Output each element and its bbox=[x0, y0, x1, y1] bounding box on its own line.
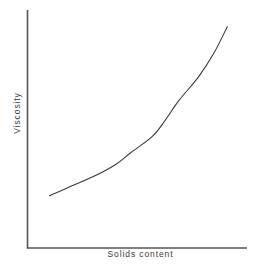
y-axis-label-text: Viscosity bbox=[12, 92, 22, 133]
figure-container: Viscosity Solids content bbox=[0, 0, 253, 265]
y-axis-label: Viscosity bbox=[5, 78, 29, 148]
chart-canvas bbox=[0, 0, 253, 265]
x-axis-label: Solids content bbox=[0, 249, 253, 259]
viscosity-curve bbox=[49, 27, 227, 196]
